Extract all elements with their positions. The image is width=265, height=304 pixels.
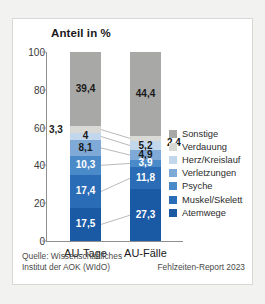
legend-label: Atemwege [182,208,226,218]
leader-line [101,148,130,155]
legend-label: Psyche [182,181,213,191]
external-value-label: 3,3 [49,123,63,134]
legend-item[interactable]: Atemwege [169,206,242,219]
y-tick-mark [42,203,46,204]
segment-value-label: 5,2 [130,141,161,151]
segment-value-label: 11,8 [130,173,161,183]
segment-value-label: 4 [70,131,101,141]
chart-plot-area: Anteil in % 020406080100 AU-TageAU-Fälle… [13,19,254,286]
legend-label: Sonstige [182,129,218,139]
y-tick-mark [42,89,46,90]
y-tick-mark [42,52,46,53]
legend-item[interactable]: Herz/Kreislauf [169,153,242,166]
source-note: Quelle: Wissenschaftliches Institut der … [22,251,122,273]
legend-label: Muskel/Skelett [182,195,242,205]
x-axis-label: AU-Fälle [116,247,175,259]
legend-swatch-icon [169,196,177,204]
segment-value-label: 17,4 [70,186,101,196]
segment-value-label: 4,9 [130,150,161,160]
chart-card: Anteil in % 020406080100 AU-TageAU-Fälle… [12,18,253,285]
chart-title: Anteil in % [51,27,111,39]
y-tick-mark [42,241,46,242]
segment-value-label: 27,3 [130,210,161,220]
leader-line [101,163,130,165]
segment-value-label: 8,1 [70,143,101,153]
legend-item[interactable]: Verdauung [169,140,242,153]
legend-label: Verdauung [182,142,227,152]
leader-line [101,178,130,191]
report-note: Fehlzeiten-Report 2023 [157,262,245,272]
y-tick-mark [42,165,46,166]
leader-line [101,136,130,145]
segment-value-label: 17,5 [70,219,101,229]
y-axis-line [46,52,47,242]
legend-item[interactable]: Psyche [169,180,242,193]
legend-swatch-icon [169,143,177,151]
legend-swatch-icon [169,169,177,177]
leader-line [101,130,130,139]
y-tick-mark [42,127,46,128]
legend-swatch-icon [169,130,177,138]
y-axis-ticks: 020406080100 [15,19,45,286]
x-axis-line [46,241,183,242]
segment-value-label: 39,4 [70,84,101,94]
leader-line [101,215,130,224]
segment-value-label: 44,4 [130,89,161,99]
legend-label: Herz/Kreislauf [182,155,240,165]
legend-swatch-icon [169,182,177,190]
legend-item[interactable]: Sonstige [169,127,242,140]
legend-label: Verletzungen [182,168,236,178]
legend-item[interactable]: Muskel/Skelett [169,193,242,206]
legend-swatch-icon [169,209,177,217]
segment-value-label: 10,3 [70,160,101,170]
legend-item[interactable]: Verletzungen [169,167,242,180]
legend-swatch-icon [169,156,177,164]
chart-legend: SonstigeVerdauungHerz/KreislaufVerletzun… [169,127,242,219]
